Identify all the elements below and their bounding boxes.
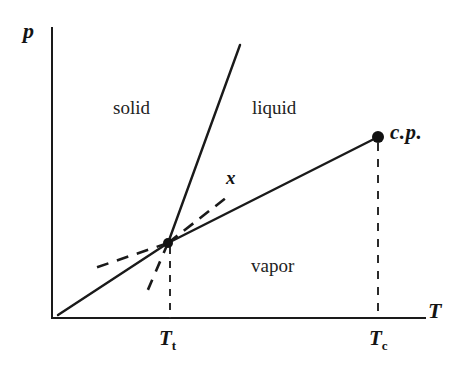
triple-point-marker — [163, 238, 173, 248]
metastable-extensions-group — [92, 194, 231, 292]
region-label-solid: solid — [113, 98, 150, 117]
critical-temperature-tick-subscript: c — [382, 338, 388, 353]
sublimation-extension-line — [92, 243, 168, 269]
y-axis-label: p — [23, 20, 34, 42]
axes-group — [52, 28, 425, 318]
critical-point-label: c.p. — [390, 122, 422, 143]
triple-temperature-tick-subscript: t — [172, 338, 176, 353]
phase-diagram-figure: p T Tt Tc c.p. x solid liquid vapor — [0, 0, 465, 377]
triple-temperature-tick-label: Tt — [159, 328, 176, 349]
region-label-liquid: liquid — [252, 98, 296, 117]
critical-point-marker — [372, 131, 384, 143]
tangent-marker-label: x — [226, 168, 236, 187]
phase-diagram-canvas — [0, 0, 465, 377]
coexistence-curves-group — [58, 45, 378, 315]
triple-temperature-tick-base: T — [159, 326, 172, 350]
droplines-group — [170, 143, 378, 318]
region-label-vapor: vapor — [251, 256, 294, 275]
sublimation-curve — [58, 243, 168, 315]
critical-temperature-tick-label: Tc — [369, 328, 388, 349]
x-axis-label: T — [428, 300, 441, 322]
critical-temperature-tick-base: T — [369, 326, 382, 350]
